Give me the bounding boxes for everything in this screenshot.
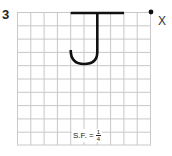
grid-lines [17, 12, 151, 145]
letter-j-shape [71, 13, 124, 64]
scale-factor-label: S.F. = 1 4 [72, 129, 102, 142]
fraction-denominator: 4 [97, 136, 100, 142]
fraction-numerator: 1 [96, 129, 101, 136]
scale-factor-fraction: 1 4 [96, 129, 101, 142]
scale-factor-text: S.F. = [73, 132, 94, 140]
point-x-dot [149, 10, 154, 15]
